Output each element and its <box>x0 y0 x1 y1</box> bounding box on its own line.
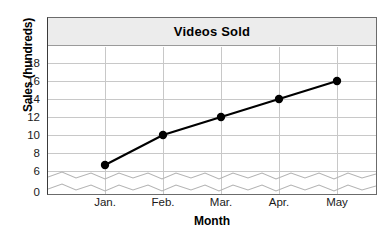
line-chart: Sales (hundreds) 18 16 14 12 10 8 6 0 Vi… <box>0 0 392 248</box>
data-point-may <box>333 77 341 85</box>
axis-break-wave-upper <box>48 172 376 179</box>
axis-break-squiggle <box>48 168 376 194</box>
y-tick-10: 10 <box>27 129 40 141</box>
x-axis-title: Month <box>47 214 377 228</box>
data-point-apr <box>275 95 283 103</box>
series-line <box>105 81 337 165</box>
y-tick-12: 12 <box>27 111 40 123</box>
axis-break-wave-lower <box>48 184 376 191</box>
x-tick-may: May <box>326 196 348 208</box>
y-tick-16: 16 <box>27 75 40 87</box>
y-tick-8: 8 <box>34 147 40 159</box>
x-axis-tick-labels: Jan. Feb. Mar. Apr. May <box>0 196 392 216</box>
x-tick-apr: Apr. <box>269 196 289 208</box>
plot-area: Videos Sold <box>47 17 377 195</box>
y-tick-14: 14 <box>27 93 40 105</box>
data-point-feb <box>159 131 167 139</box>
data-point-mar <box>217 113 225 121</box>
x-tick-feb: Feb. <box>151 196 174 208</box>
x-tick-mar: Mar. <box>210 196 232 208</box>
y-tick-6: 6 <box>34 165 40 177</box>
x-tick-jan: Jan. <box>94 196 116 208</box>
y-tick-18: 18 <box>27 57 40 69</box>
